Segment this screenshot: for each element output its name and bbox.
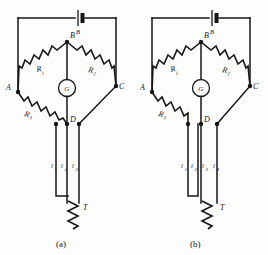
panel-a-caption: (a) xyxy=(56,239,66,249)
resistor-r3-zigzag xyxy=(18,92,67,124)
node-c-to-lead-l4-wire xyxy=(217,86,250,124)
figure-canvas: B B R 1 R 2 A C R 3 G D xyxy=(0,0,268,255)
node-c-label: C xyxy=(253,82,259,91)
battery-label: B xyxy=(76,28,80,35)
node-b-label: B xyxy=(204,31,209,40)
resistor-r3-subscript: 3 xyxy=(163,115,167,121)
lead-l2-label: l xyxy=(191,162,193,169)
resistor-r2-subscript: 2 xyxy=(227,71,231,77)
lead-l4-label: l xyxy=(213,162,215,169)
node-d-label: D xyxy=(69,115,76,124)
resistor-r2-zigzag xyxy=(67,42,116,86)
lead-l1-label: l xyxy=(51,162,53,169)
panel-b-caption: (b) xyxy=(190,239,201,249)
resistor-r3-zigzag xyxy=(152,92,188,124)
node-a-label: A xyxy=(5,83,11,92)
panel-b-diagram: B B R 1 R 2 A C R 3 G D xyxy=(134,0,268,255)
node-d-label: D xyxy=(203,115,210,124)
lead-l4-subscript: 4 xyxy=(217,167,220,172)
resistor-r1-subscript: 1 xyxy=(175,71,178,76)
lead-l2-label: l xyxy=(61,162,63,169)
panel-a-diagram: B B R 1 R 2 A C R 3 G D xyxy=(0,0,134,255)
galvanometer-label: G xyxy=(198,85,203,93)
node-a-label: A xyxy=(139,83,145,92)
lead-l1-subscript: 1 xyxy=(185,167,188,172)
resistor-r2-zigzag xyxy=(201,42,250,86)
node-c-label: C xyxy=(119,82,125,91)
galvanometer-label: G xyxy=(64,85,69,93)
node-c-to-node-d-wire xyxy=(79,86,116,124)
sensor-t-zigzag xyxy=(202,201,212,229)
lead-l3-subscript: 3 xyxy=(206,167,209,172)
lead-l1-subscript: 1 xyxy=(55,167,58,172)
lead-l3-label: l xyxy=(202,162,204,169)
resistor-r2-subscript: 2 xyxy=(93,71,97,77)
resistor-r3-subscript: 3 xyxy=(29,115,33,121)
battery-label: B xyxy=(210,28,214,35)
lead-l3-subscript: 3 xyxy=(76,167,79,172)
lead-l1-label: l xyxy=(181,162,183,169)
lead-l3-label: l xyxy=(72,162,74,169)
node-b-label: B xyxy=(70,31,75,40)
sensor-t-label: T xyxy=(83,203,88,212)
sensor-t-zigzag xyxy=(68,201,78,229)
sensor-t-label: T xyxy=(220,203,225,212)
resistor-r1-subscript: 1 xyxy=(41,71,44,76)
lead-l1-l2-compensating-loop-wire xyxy=(188,124,198,196)
lead-l1-wire xyxy=(56,124,68,196)
lead-l2-subscript: 2 xyxy=(195,167,198,172)
